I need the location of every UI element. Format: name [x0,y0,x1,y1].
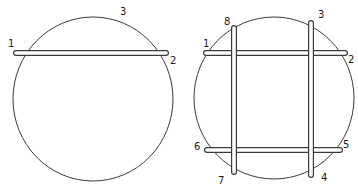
label-group: 123 [8,6,176,66]
rod-group [206,23,345,175]
point-label-5: 5 [343,139,349,150]
point-label-6: 6 [194,141,200,152]
point-label-1: 1 [203,38,209,49]
point-label-2: 2 [348,54,354,65]
label-group: 12345678 [194,9,354,186]
single-rod-figure: 123 [8,6,176,181]
point-label-8: 8 [224,16,230,27]
diagram-canvas: 123 12345678 [0,0,358,195]
point-label-4: 4 [321,172,327,183]
four-rod-figure: 12345678 [194,9,354,186]
point-label-3: 3 [120,6,126,17]
point-label-2: 2 [170,55,176,66]
point-label-3: 3 [318,9,324,20]
circle-outline [13,17,173,181]
point-label-1: 1 [8,38,14,49]
circle-outline [194,17,354,179]
point-label-7: 7 [218,175,224,186]
